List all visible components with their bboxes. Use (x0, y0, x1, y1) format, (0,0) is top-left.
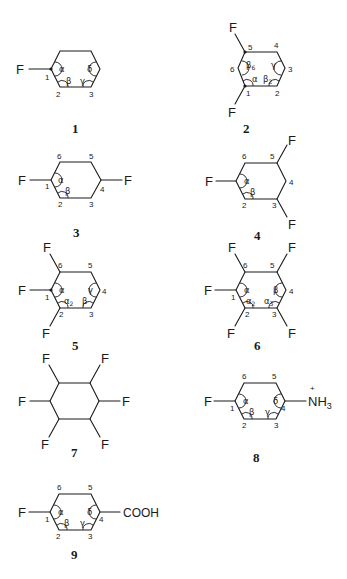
ring-7 (50, 383, 99, 419)
ring-number-3: 3 (89, 310, 94, 319)
carboxyl-group: COOH (123, 506, 159, 520)
atom-f-top-left: F (228, 240, 236, 255)
angle-alpha: α (244, 176, 250, 186)
ring-number-6: 6 (242, 372, 247, 381)
bond-c1-f (235, 86, 245, 104)
structure-8: F NH3 + 6 5 1 4 2 3 α β γ δ 8 (204, 372, 332, 465)
structure-1: F 1 2 3 α β γ δ 1 (16, 51, 100, 136)
ring-number-4: 4 (281, 404, 286, 413)
atom-f-left: F (18, 394, 26, 409)
compound-label-1: 1 (72, 121, 79, 136)
angle-beta6: β6 (246, 60, 255, 71)
atom-f-top-left: F (42, 351, 50, 366)
angle-alpha3: α3 (264, 296, 274, 307)
compound-label-9: 9 (71, 547, 78, 562)
angle-alpha: α (58, 175, 64, 185)
angle-beta: β (273, 285, 278, 295)
ring-number-4: 4 (274, 41, 279, 50)
atom-f-top-right: F (101, 351, 109, 366)
atom-f: F (16, 62, 24, 77)
angle-beta: β (66, 76, 71, 86)
ring-number-2: 2 (56, 532, 61, 541)
atom-dot (49, 288, 52, 291)
bond-c2-f (235, 308, 245, 326)
bond-c3-f (277, 199, 287, 217)
ring-number-6: 6 (242, 152, 247, 161)
atom-f-left: F (18, 283, 26, 298)
ring-number-6: 6 (57, 152, 62, 161)
structure-4: F F F 6 5 4 2 3 α β 4 (205, 133, 296, 243)
ring-number-5: 5 (88, 483, 93, 492)
angle-alpha: α (243, 396, 249, 406)
ring-number-1: 1 (230, 404, 235, 413)
bond-c3-f (277, 308, 287, 326)
ring-number-2: 2 (242, 201, 247, 210)
angle-delta: δ (273, 396, 278, 406)
angle-gamma: γ (80, 518, 85, 528)
bond-c5-f (235, 34, 245, 52)
ring-number-1: 1 (45, 182, 50, 191)
fluorobenzene-figure: F 1 2 3 α β γ δ 1 F F 5 4 6 3 1 2 β6 γ α… (0, 0, 347, 579)
positive-charge: + (310, 384, 315, 393)
ring-number-5: 5 (88, 261, 93, 270)
atom-f-top: F (288, 133, 296, 148)
bond-c5-f (277, 145, 287, 163)
ring-number-5: 5 (270, 152, 275, 161)
compound-label-8: 8 (253, 450, 260, 465)
angle-beta: β (82, 296, 87, 306)
angle-beta: β (64, 518, 69, 528)
angle-gamma: γ (271, 60, 276, 70)
ring-number-5: 5 (248, 43, 253, 52)
bond-c5-f (90, 365, 100, 383)
atom-f: F (18, 505, 26, 520)
ring-number-1: 1 (45, 73, 50, 82)
ring-number-2: 2 (56, 90, 61, 99)
compound-label-3: 3 (73, 225, 80, 240)
ring-number-4: 4 (99, 515, 104, 524)
atom-f-bottom: F (288, 217, 296, 232)
angle-gamma: γ (88, 285, 93, 295)
angle-alpha2: α2 (246, 296, 256, 307)
structure-3: F F 6 5 1 4 2 3 α β 3 (18, 152, 132, 240)
atom-dot (243, 84, 246, 87)
ring-number-3: 3 (89, 200, 94, 209)
ring-number-5: 5 (270, 261, 275, 270)
compound-label-6: 6 (254, 338, 261, 353)
ring-number-1: 1 (231, 293, 236, 302)
atom-f-left: F (18, 173, 26, 188)
ring-number-2: 2 (58, 200, 63, 209)
bond-c5-f (277, 254, 287, 272)
angle-alpha: α (252, 74, 258, 84)
structure-2: F F 5 4 6 3 1 2 β6 γ α β2 2 (228, 20, 293, 136)
angle-gamma: γ (265, 407, 270, 417)
ring-number-2: 2 (275, 89, 280, 98)
angle-beta2: β2 (263, 74, 272, 85)
ring-number-2: 2 (245, 310, 250, 319)
bond-c2-f (49, 419, 59, 437)
angle-beta: β (65, 186, 70, 196)
atom-f-bottom: F (228, 105, 236, 120)
ring-number-2: 2 (59, 310, 64, 319)
atom-f-left: F (205, 174, 213, 189)
ring-number-3: 3 (288, 65, 293, 74)
ring-number-4: 4 (289, 287, 294, 296)
ring-number-1: 1 (45, 293, 50, 302)
structure-7: F F F F F F 7 (18, 351, 130, 460)
ring-number-3: 3 (88, 532, 93, 541)
compound-label-4: 4 (254, 228, 261, 243)
atom-f-left: F (204, 283, 212, 298)
bond-c6-f (49, 365, 59, 383)
ring-number-6: 6 (230, 65, 235, 74)
angle-alpha: α (59, 64, 65, 74)
ring-number-4: 4 (289, 178, 294, 187)
angle-alpha: α (58, 507, 64, 517)
ring-number-5: 5 (89, 152, 94, 161)
atom-dot (49, 67, 52, 70)
atom-f-bottom-right: F (288, 326, 296, 341)
angle-gamma: γ (80, 76, 85, 86)
ring-number-5: 5 (272, 372, 277, 381)
angle-beta: β (250, 187, 255, 197)
angle-alpha: α (244, 285, 250, 295)
atom-f-top: F (43, 240, 51, 255)
compound-label-5: 5 (72, 338, 79, 353)
